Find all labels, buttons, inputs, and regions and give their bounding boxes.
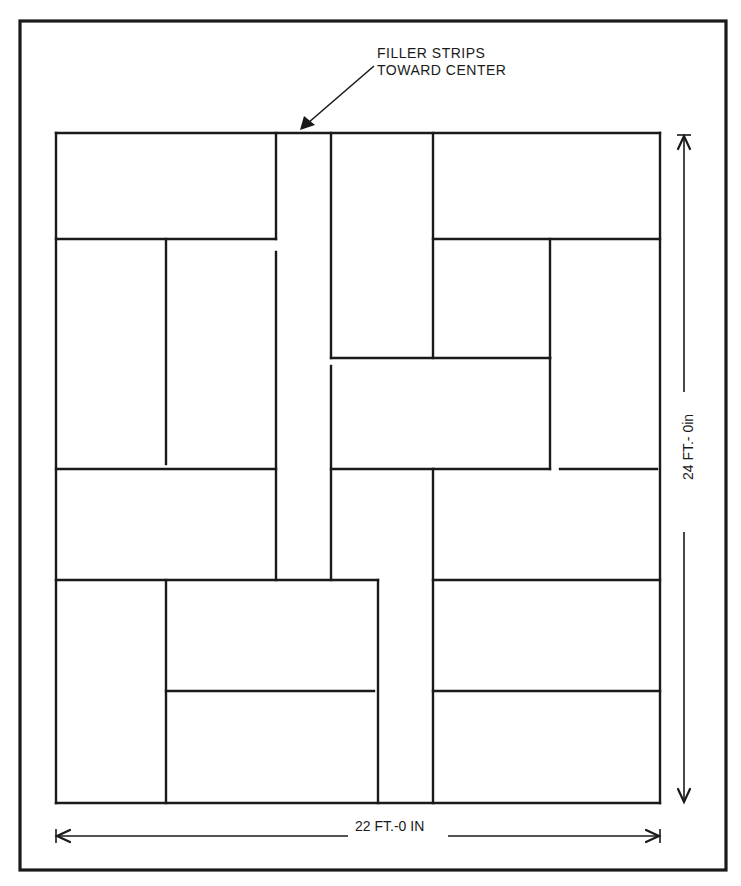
outer-frame: [20, 21, 726, 870]
filler-strips-callout-arrow: [300, 66, 374, 130]
callout-label: FILLER STRIPS TOWARD CENTER: [377, 45, 506, 79]
tile-grid-lines: [56, 133, 660, 803]
floor-plan-drawing: [0, 0, 741, 886]
width-dimension-label: 22 FT.-0 IN: [352, 819, 427, 833]
height-dimension-label: 24 FT.- 0in: [681, 411, 695, 483]
callout-line-2: TOWARD CENTER: [377, 62, 506, 79]
callout-line-1: FILLER STRIPS: [377, 45, 506, 62]
tile-layout-diagram: FILLER STRIPS TOWARD CENTER 22 FT.-0 IN …: [0, 0, 741, 886]
